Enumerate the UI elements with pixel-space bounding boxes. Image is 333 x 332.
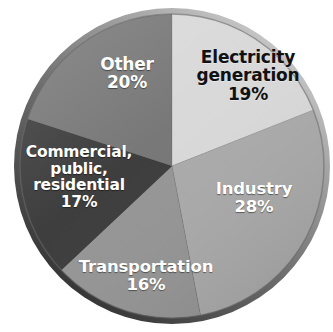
pie-slices-group: [20, 14, 324, 318]
pie-chart-graphic: [0, 0, 333, 332]
pie-chart-figure: Electricity generation 19% Industry 28% …: [0, 0, 333, 332]
